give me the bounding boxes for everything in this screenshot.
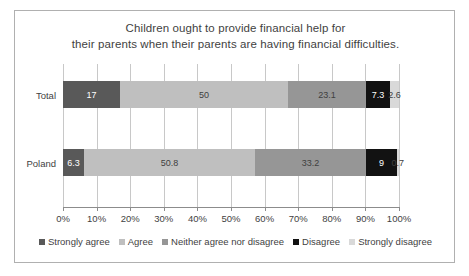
- bar-segment-value: 23.1: [318, 90, 336, 100]
- legend-item[interactable]: Disagree: [293, 236, 340, 247]
- bar-segment-value: 7.3: [372, 90, 385, 100]
- bar-segment-value: 2.6: [388, 90, 401, 100]
- bar-segment: 23.1: [288, 81, 366, 108]
- bar-segment: 6.3: [63, 149, 84, 176]
- legend-swatch-icon: [349, 239, 355, 245]
- bar-segment: 50: [120, 81, 288, 108]
- x-axis-tick: [399, 207, 400, 211]
- legend-label: Disagree: [302, 236, 340, 247]
- x-axis-tick: [130, 207, 131, 211]
- x-axis-tick-label: 40%: [188, 213, 207, 224]
- x-axis-tick-label: 60%: [255, 213, 274, 224]
- legend-label: Neither agree nor disagree: [171, 236, 284, 247]
- x-axis-tick: [63, 207, 64, 211]
- legend-swatch-icon: [39, 239, 45, 245]
- bar-segment: 0.7: [397, 149, 399, 176]
- gridline: [399, 64, 400, 207]
- x-axis-tick-label: 20%: [121, 213, 140, 224]
- x-axis-tick: [97, 207, 98, 211]
- x-axis-tick-label: 90%: [356, 213, 375, 224]
- x-axis-tick: [298, 207, 299, 211]
- x-axis-tick-label: 30%: [154, 213, 173, 224]
- legend-swatch-icon: [119, 239, 125, 245]
- bar-segment: 7.3: [366, 81, 391, 108]
- x-axis-ticks: [63, 207, 399, 212]
- legend-label: Strongly agree: [48, 236, 110, 247]
- legend-item[interactable]: Agree: [119, 236, 153, 247]
- x-axis-tick: [164, 207, 165, 211]
- x-axis-tick-label: 100%: [387, 213, 411, 224]
- x-axis-tick: [197, 207, 198, 211]
- bar-segment: 9: [366, 149, 396, 176]
- bar-segment-value: 50: [199, 90, 209, 100]
- legend-item[interactable]: Neither agree nor disagree: [162, 236, 284, 247]
- legend-item[interactable]: Strongly disagree: [349, 236, 432, 247]
- x-axis-tick: [332, 207, 333, 211]
- x-axis-tick-label: 0%: [56, 213, 70, 224]
- legend-label: Agree: [128, 236, 153, 247]
- chart-title-line-1: Children ought to provide financial help…: [15, 20, 456, 36]
- x-axis-tick: [365, 207, 366, 211]
- legend-swatch-icon: [162, 239, 168, 245]
- chart-container: Children ought to provide financial help…: [14, 10, 455, 263]
- bar-segment: 33.2: [255, 149, 367, 176]
- bar-segment: 50.8: [84, 149, 255, 176]
- bar-segment-value: 17: [87, 90, 97, 100]
- x-axis-tick: [265, 207, 266, 211]
- x-axis-tick-label: 80%: [322, 213, 341, 224]
- chart-legend: Strongly agreeAgreeNeither agree nor dis…: [15, 236, 456, 247]
- category-label-total: Total: [36, 89, 56, 100]
- x-axis-tick: [231, 207, 232, 211]
- chart-title: Children ought to provide financial help…: [15, 20, 456, 52]
- plot-area: Total 175023.17.32.6 Poland 6.350.833.29…: [63, 64, 399, 207]
- bar-row: Poland 6.350.833.290.7: [63, 149, 399, 176]
- bar-segment: 2.6: [390, 81, 399, 108]
- bar-segment: 17: [63, 81, 120, 108]
- bar-segment-value: 9: [379, 158, 384, 168]
- legend-label: Strongly disagree: [358, 236, 432, 247]
- bar-segment-value: 50.8: [161, 158, 179, 168]
- bar-segment-value: 6.3: [67, 158, 80, 168]
- bar-segment-value: 33.2: [302, 158, 320, 168]
- bar-row: Total 175023.17.32.6: [63, 81, 399, 108]
- category-label-poland: Poland: [26, 157, 56, 168]
- legend-swatch-icon: [293, 239, 299, 245]
- chart-title-line-2: their parents when their parents are hav…: [15, 36, 456, 52]
- x-axis-tick-label: 10%: [87, 213, 106, 224]
- legend-item[interactable]: Strongly agree: [39, 236, 110, 247]
- x-axis-tick-label: 70%: [289, 213, 308, 224]
- x-axis-labels: 0%10%20%30%40%50%60%70%80%90%100%: [63, 213, 399, 227]
- x-axis-tick-label: 50%: [221, 213, 240, 224]
